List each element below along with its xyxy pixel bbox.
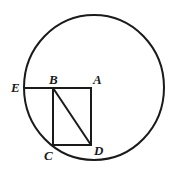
diagonal-bd	[53, 88, 91, 145]
label-b: B	[48, 72, 58, 87]
label-c: C	[44, 148, 53, 163]
label-d: D	[93, 143, 104, 158]
label-e: E	[10, 80, 20, 95]
label-a: A	[92, 72, 102, 87]
geometry-diagram: E B A C D	[0, 0, 177, 174]
